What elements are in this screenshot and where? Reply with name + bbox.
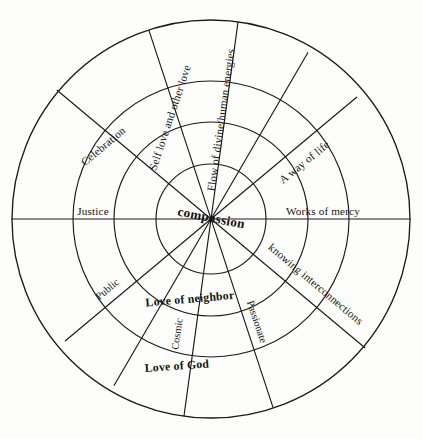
- label-compassion-text: compassion: [176, 204, 246, 232]
- label-compassion: compassion: [176, 204, 246, 232]
- label-passionate: Passionate: [245, 299, 269, 344]
- label-love-of-god: Love of God: [144, 356, 210, 374]
- label-love-of-neighbor: Love of neighbor: [145, 288, 235, 310]
- label-works-of-mercy: Works of mercy: [286, 205, 360, 217]
- compassion-wheel-diagram: compassion Justice Works of mercy Celebr…: [0, 0, 423, 439]
- label-self-love-and-other-love: Self love and other love: [146, 63, 192, 172]
- label-flow-of-divine-human-energies: Flow of divine/human energies: [205, 48, 237, 192]
- wheel-svg: compassion Justice Works of mercy Celebr…: [0, 0, 423, 439]
- label-celebration: Celebration: [79, 124, 128, 168]
- label-cosmic: Cosmic: [169, 317, 184, 350]
- label-a-way-of-life: A way of life: [277, 138, 332, 186]
- label-knowing-interconnections: knowing interconnections: [266, 241, 365, 327]
- label-justice: Justice: [77, 205, 109, 217]
